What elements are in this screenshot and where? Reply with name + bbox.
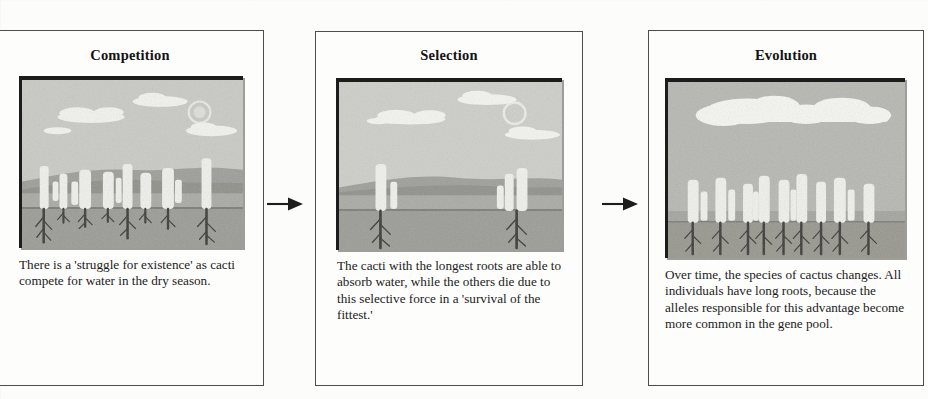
illustration-evolution xyxy=(665,78,905,258)
panel-selection: Selection xyxy=(315,31,583,386)
panel-competition: Competition xyxy=(0,30,264,386)
arrow-right-icon-1 xyxy=(266,194,304,214)
panel-evolution: Evolution xyxy=(648,30,924,386)
arrow-right-icon-2 xyxy=(601,194,639,214)
panel-competition-caption: There is a 'struggle for existence' as c… xyxy=(19,257,241,290)
panel-evolution-heading: Evolution xyxy=(649,47,923,64)
panel-competition-heading: Competition xyxy=(0,47,263,64)
figure-stage: Competition xyxy=(0,0,928,399)
panel-selection-caption: The cacti with the longest roots are abl… xyxy=(337,258,565,324)
illustration-competition xyxy=(19,76,243,248)
illustration-selection xyxy=(336,78,562,250)
panel-selection-heading: Selection xyxy=(316,47,582,64)
panel-evolution-caption: Over time, the species of cactus changes… xyxy=(665,267,905,333)
